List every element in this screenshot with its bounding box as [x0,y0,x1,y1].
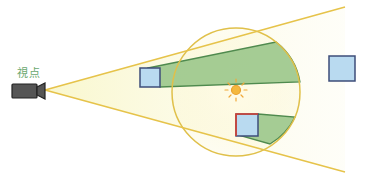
camera-icon [12,83,45,99]
shadow-diagram [0,0,367,185]
box-shadowed [236,114,258,136]
box-occluder [140,68,160,87]
box-outside [329,56,355,81]
viewpoint-label: 視点 [17,64,40,80]
